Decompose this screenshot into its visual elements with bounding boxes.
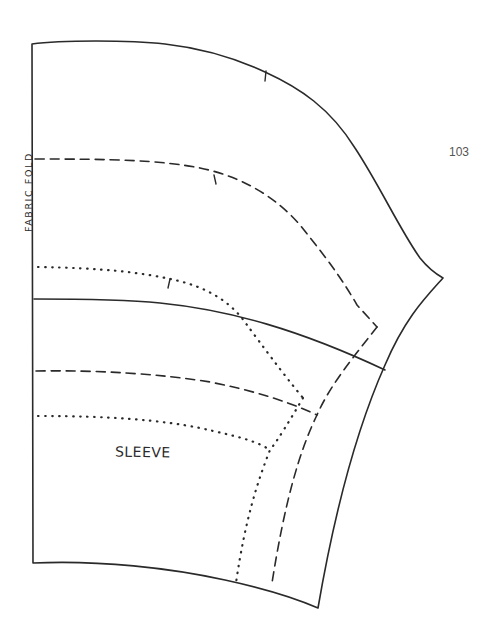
pattern-piece-label: SLEEVE	[115, 444, 171, 461]
upper-stitch-line	[38, 267, 303, 398]
upper-stitch-notch	[168, 279, 170, 288]
sleeve-division-line	[34, 299, 385, 370]
sleeve-pattern-drawing	[0, 0, 499, 627]
page-number: 103	[449, 145, 469, 159]
side-seam-line	[272, 327, 377, 583]
upper-seam-notch	[214, 175, 216, 184]
top-notch	[265, 71, 266, 81]
side-stitch-line	[236, 398, 303, 583]
lower-seam-line	[36, 371, 317, 415]
fabric-fold-label: FABRIC FOLD	[23, 152, 34, 232]
outer-cut-line	[32, 41, 443, 608]
upper-seam-line	[35, 159, 377, 327]
